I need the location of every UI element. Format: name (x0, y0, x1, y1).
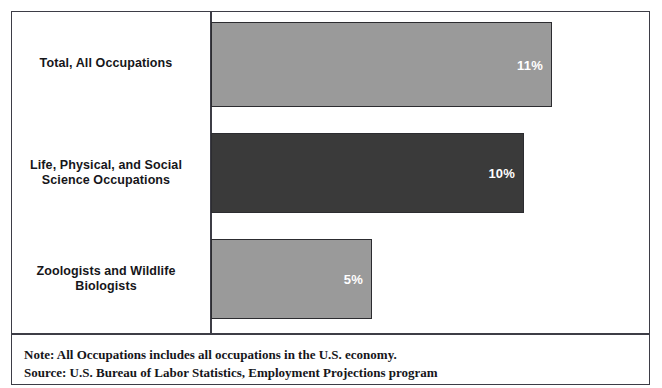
footer-notes: Note: All Occupations includes all occup… (24, 346, 634, 381)
category-label-line-1: Total, All Occupations (40, 56, 173, 70)
plot-area: Total, All Occupations 11% Life, Physica… (12, 12, 649, 334)
category-label-line-2: Science Occupations (42, 173, 170, 187)
bar-row: Zoologists and Wildlife Biologists 5% (12, 239, 649, 319)
footer-note: Note: All Occupations includes all occup… (24, 346, 634, 364)
category-label-line-2: Biologists (75, 279, 136, 293)
axis-separator-line (12, 333, 649, 335)
bar-value-label-life-physical-social-science: 10% (488, 166, 515, 181)
footer-source: Source: U.S. Bureau of Labor Statistics,… (24, 364, 634, 382)
category-label-zoologists-wildlife-biologists: Zoologists and Wildlife Biologists (12, 264, 200, 294)
bar-life-physical-social-science: 10% (211, 133, 524, 213)
category-label-total-all-occupations: Total, All Occupations (12, 56, 200, 71)
chart-frame: Total, All Occupations 11% Life, Physica… (11, 11, 650, 385)
category-label-line-1: Life, Physical, and Social (30, 158, 182, 172)
bar-row: Total, All Occupations 11% (12, 22, 649, 107)
category-label-life-physical-social-science: Life, Physical, and Social Science Occup… (12, 158, 200, 188)
bar-value-label-zoologists-wildlife-biologists: 5% (344, 272, 363, 287)
bar-value-label-total-all-occupations: 11% (517, 57, 543, 72)
category-label-line-1: Zoologists and Wildlife (37, 264, 176, 278)
bar-row: Life, Physical, and Social Science Occup… (12, 133, 649, 213)
bar-total-all-occupations: 11% (211, 22, 552, 107)
bar-zoologists-wildlife-biologists: 5% (211, 239, 372, 319)
chart-figure: Total, All Occupations 11% Life, Physica… (0, 0, 662, 388)
